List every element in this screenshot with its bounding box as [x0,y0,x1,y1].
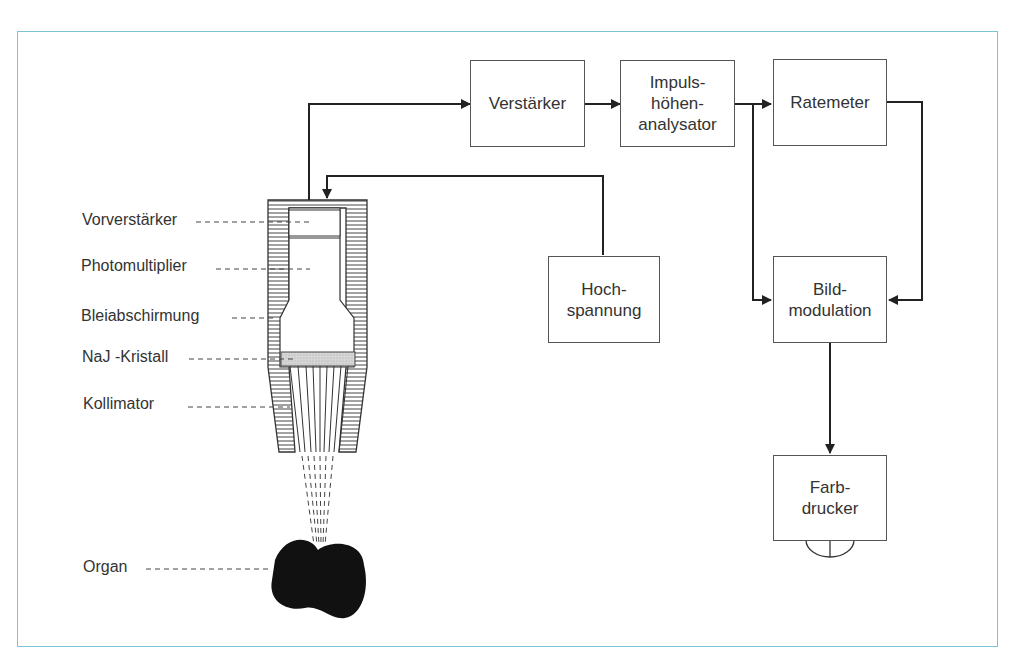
block-cp-line-1: Farb- [810,477,851,498]
block-amplifier-label: Verstärker [489,93,566,114]
block-hv-line-1: Hoch- [581,279,626,300]
printer-drum-icon [806,540,854,557]
label-organ: Organ [83,558,127,576]
block-high-voltage: Hoch- spannung [548,256,660,343]
block-pulse-height-analyzer: Impuls- höhen- analysator [620,60,735,147]
block-image-modulation: Bild- modulation [773,256,887,343]
block-hv-line-2: spannung [567,300,642,321]
label-naj-crystal: NaJ -Kristall [82,348,168,366]
block-amplifier: Verstärker [470,60,585,147]
block-pha-line-3: analysator [638,114,716,135]
block-pha-line-2: höhen- [651,93,704,114]
label-lead-shielding: Bleiabschirmung [81,307,199,325]
block-cp-line-2: drucker [802,498,859,519]
block-im-line-2: modulation [788,300,871,321]
detector-head [268,200,367,545]
block-ratemeter: Ratemeter [773,59,887,146]
block-im-line-1: Bild- [813,279,847,300]
label-collimator: Kollimator [83,395,154,413]
label-preamplifier: Vorverstärker [82,211,177,229]
block-color-printer: Farb- drucker [773,455,887,541]
block-ratemeter-label: Ratemeter [790,92,869,113]
label-photomultiplier: Photomultiplier [81,257,187,275]
block-pha-line-1: Impuls- [650,72,706,93]
organ-shape [271,540,366,618]
